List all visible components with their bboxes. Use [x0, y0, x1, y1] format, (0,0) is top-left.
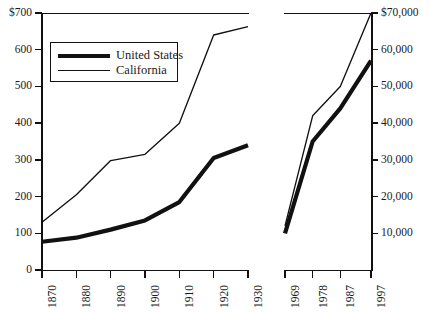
legend-label-united-states: United States — [116, 49, 183, 62]
legend-swatch-united-states — [58, 54, 110, 58]
legend: United States California — [50, 42, 178, 82]
legend-item-united-states: United States — [58, 49, 183, 62]
series-line-united-states-historical — [42, 145, 248, 242]
chart-container: $7006005004003002001000 $70,00060,00050,… — [0, 0, 430, 312]
legend-swatch-california — [58, 70, 110, 71]
legend-label-california: California — [116, 64, 167, 77]
series-line-united-states-modern — [285, 61, 371, 234]
legend-item-california: California — [58, 64, 167, 77]
